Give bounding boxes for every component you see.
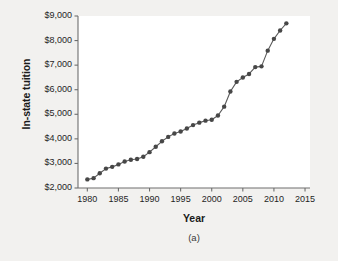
y-axis-title: In-state tuition [20,39,32,149]
figure-container: $2,000$3,000$4,000$5,000$6,000$7,000$8,0… [0,0,338,261]
x-tick-label: 2015 [285,194,325,204]
figure-caption: (a) [78,232,310,243]
x-axis-title: Year [78,212,310,224]
